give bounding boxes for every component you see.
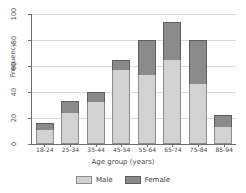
y-tick-label-40: 40 xyxy=(10,79,18,105)
x-tick-label-18-24: 18-24 xyxy=(32,146,58,153)
y-tick-label-60: 60 xyxy=(10,53,18,79)
legend-swatch-male xyxy=(76,176,92,184)
bar-segment-female-75-84[interactable] xyxy=(189,40,207,84)
stacked-bar-chart: Frequency 020406080100 18-2425-3435-4445… xyxy=(0,0,246,193)
bar-column-65-74[interactable] xyxy=(163,14,181,144)
legend-item-male[interactable]: Male xyxy=(76,176,113,184)
bar-segment-male-65-74[interactable] xyxy=(163,60,181,145)
legend-item-female[interactable]: Female xyxy=(125,176,170,184)
y-tick-label-0: 0 xyxy=(10,131,18,157)
x-tick-label-35-44: 35-44 xyxy=(83,146,109,153)
bar-segment-male-25-34[interactable] xyxy=(61,113,79,144)
bar-segment-female-65-74[interactable] xyxy=(163,22,181,60)
bar-segment-female-85-94[interactable] xyxy=(214,115,232,127)
chart-legend: MaleFemale xyxy=(0,176,246,184)
bar-segment-female-25-34[interactable] xyxy=(61,101,79,113)
bar-segment-male-75-84[interactable] xyxy=(189,84,207,144)
legend-label-female: Female xyxy=(145,176,170,184)
bar-segment-male-35-44[interactable] xyxy=(87,102,105,144)
x-tick-label-65-74: 65-74 xyxy=(160,146,186,153)
bar-segment-female-35-44[interactable] xyxy=(87,92,105,102)
legend-swatch-female xyxy=(125,176,141,184)
y-tick-label-100: 100 xyxy=(10,1,18,27)
x-axis-title: Age group (years) xyxy=(0,158,246,166)
y-tick-mark-40 xyxy=(28,92,31,93)
bar-series-group xyxy=(32,14,236,144)
x-tick-label-55-64: 55-64 xyxy=(135,146,161,153)
y-tick-mark-0 xyxy=(28,144,31,145)
y-tick-mark-20 xyxy=(28,118,31,119)
y-tick-label-20: 20 xyxy=(10,105,18,131)
x-tick-label-45-54: 45-54 xyxy=(109,146,135,153)
plot-area: 020406080100 xyxy=(31,14,236,144)
bar-segment-male-55-64[interactable] xyxy=(138,75,156,144)
bar-column-45-54[interactable] xyxy=(112,14,130,144)
x-tick-label-75-84: 75-84 xyxy=(186,146,212,153)
bar-column-85-94[interactable] xyxy=(214,14,232,144)
bar-column-75-84[interactable] xyxy=(189,14,207,144)
x-tick-label-25-34: 25-34 xyxy=(58,146,84,153)
bar-segment-female-55-64[interactable] xyxy=(138,40,156,75)
bar-column-25-34[interactable] xyxy=(61,14,79,144)
bar-column-35-44[interactable] xyxy=(87,14,105,144)
y-tick-mark-100 xyxy=(28,14,31,15)
bar-column-18-24[interactable] xyxy=(36,14,54,144)
bar-segment-male-18-24[interactable] xyxy=(36,130,54,144)
x-tick-label-85-94: 85-94 xyxy=(211,146,237,153)
y-tick-label-80: 80 xyxy=(10,27,18,53)
bar-segment-female-45-54[interactable] xyxy=(112,60,130,70)
y-tick-mark-60 xyxy=(28,66,31,67)
bar-segment-male-45-54[interactable] xyxy=(112,70,130,144)
y-tick-mark-80 xyxy=(28,40,31,41)
legend-label-male: Male xyxy=(96,176,113,184)
bar-column-55-64[interactable] xyxy=(138,14,156,144)
bar-segment-male-85-94[interactable] xyxy=(214,127,232,144)
x-axis-tick-labels: 18-2425-3435-4445-5455-6465-7475-8485-94 xyxy=(32,146,237,153)
